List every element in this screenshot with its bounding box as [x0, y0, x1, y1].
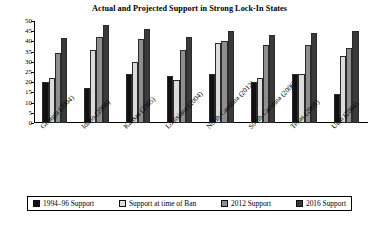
y-tick-mark	[31, 82, 34, 83]
y-tick-mark	[31, 72, 34, 73]
y-tick-label: 10	[12, 99, 32, 106]
legend-swatch-icon	[119, 200, 126, 207]
y-tick-label: 45	[12, 28, 32, 35]
y-tick-mark	[31, 62, 34, 63]
y-tick-label: 25	[12, 69, 32, 76]
y-tick-mark	[31, 113, 34, 114]
y-tick-label: 35	[12, 48, 32, 55]
legend-item: 1994–96 Support	[33, 200, 94, 208]
y-tick-mark	[31, 103, 34, 104]
chart-legend: 1994–96 SupportSupport at time of Ban201…	[27, 196, 352, 211]
y-axis-tick-labels: 05101520253035404550	[8, 21, 32, 123]
y-tick-mark	[31, 41, 34, 42]
legend-swatch-icon	[33, 200, 40, 207]
y-tick-mark	[31, 31, 34, 32]
chart-figure: Actual and Projected Support in Strong L…	[0, 0, 379, 234]
y-tick-label: 5	[12, 109, 32, 116]
legend-item: 2016 Support	[296, 200, 346, 208]
y-tick-label: 40	[12, 38, 32, 45]
legend-item: Support at time of Ban	[119, 200, 196, 208]
y-tick-mark	[31, 21, 34, 22]
y-tick-label: 0	[12, 120, 32, 127]
y-tick-mark	[31, 52, 34, 53]
y-tick-mark	[31, 123, 34, 124]
y-tick-mark	[31, 92, 34, 93]
y-tick-label: 50	[12, 18, 32, 25]
y-tick-label: 30	[12, 58, 32, 65]
legend-swatch-icon	[296, 200, 303, 207]
legend-label: 2012 Support	[231, 200, 271, 208]
legend-swatch-icon	[221, 200, 228, 207]
chart-title: Actual and Projected Support in Strong L…	[0, 4, 379, 13]
y-tick-label: 20	[12, 79, 32, 86]
x-axis-tick-labels: Georgia (2004)Idaho (2006)Kansas (2005)L…	[34, 123, 367, 185]
legend-label: 2016 Support	[306, 200, 346, 208]
legend-label: Support at time of Ban	[129, 200, 196, 208]
legend-item: 2012 Support	[221, 200, 271, 208]
y-tick-label: 15	[12, 89, 32, 96]
legend-label: 1994–96 Support	[43, 200, 94, 208]
